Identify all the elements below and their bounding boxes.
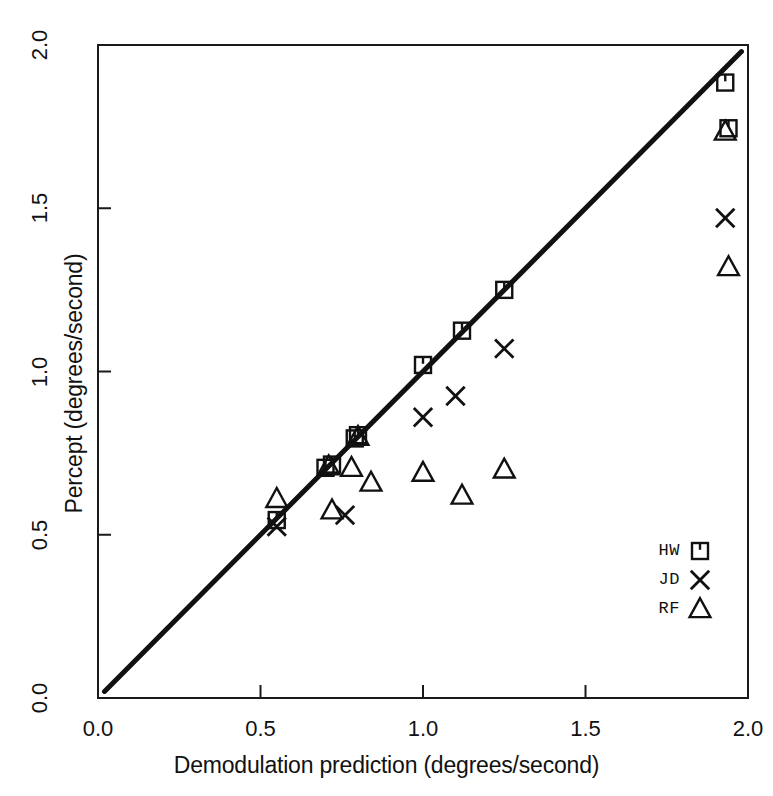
y-axis-title: Percept (degrees/second) [61, 64, 88, 704]
y-tick-label: 1.0 [27, 342, 53, 402]
plot-canvas [0, 0, 773, 796]
identity-line [105, 52, 742, 692]
data-point [718, 256, 739, 275]
data-point [494, 459, 515, 478]
data-point [336, 506, 354, 524]
scatter-plot-figure: 0.00.51.01.52.0 0.00.51.01.52.0 HWJDRF D… [0, 0, 773, 796]
data-point [452, 485, 473, 504]
x-tick-label: 0.5 [245, 716, 276, 742]
x-tick-label: 1.5 [570, 716, 601, 742]
data-point [446, 387, 464, 405]
legend-markers [690, 543, 711, 617]
data-point [495, 339, 513, 357]
y-tick-label: 2.0 [27, 15, 53, 75]
data-point [361, 472, 382, 491]
x-tick-label: 0.0 [83, 716, 114, 742]
legend-label-rf: RF [628, 599, 680, 618]
legend-marker-hw [692, 543, 708, 559]
data-point [341, 457, 362, 476]
x-tick-label: 1.0 [408, 716, 439, 742]
data-point [266, 488, 287, 507]
series-jd [268, 209, 735, 536]
y-tick-label: 0.0 [27, 668, 53, 728]
x-axis-title: Demodulation prediction (degrees/second) [0, 752, 773, 779]
data-points-layer [266, 75, 739, 536]
y-tick-label: 0.5 [27, 505, 53, 565]
y-tick-label: 1.5 [27, 178, 53, 238]
data-point [414, 408, 432, 426]
legend-marker-rf [690, 598, 711, 617]
legend-marker-jd [691, 571, 709, 589]
x-tick-label: 2.0 [733, 716, 764, 742]
legend-label-jd: JD [628, 570, 680, 589]
data-point [716, 209, 734, 227]
legend-label-hw: HW [628, 541, 680, 560]
data-point [413, 462, 434, 481]
